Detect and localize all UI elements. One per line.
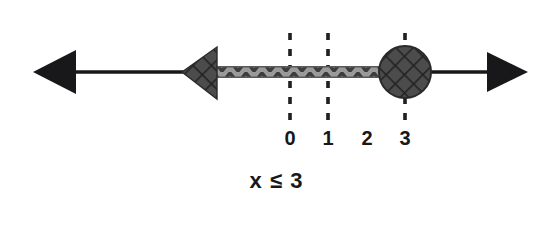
tick-label-1: 1: [316, 126, 340, 150]
tick-label-2: 2: [355, 126, 379, 150]
tick-label-0: 0: [278, 126, 302, 150]
closed-endpoint-circle: [379, 46, 431, 98]
solution-ray-arrowhead-icon: [182, 47, 217, 99]
solution-ray-group: [182, 47, 392, 99]
endpoint-circle-group: [379, 46, 431, 98]
inequality-caption: x ≤ 3: [0, 168, 553, 194]
solution-ray-band: [216, 66, 392, 78]
left-arrowhead-icon: [33, 50, 76, 94]
tick-label-3: 3: [393, 126, 417, 150]
right-arrowhead-icon: [487, 52, 528, 92]
